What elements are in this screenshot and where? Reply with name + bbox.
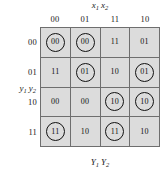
row-header: 11 (12, 117, 37, 147)
kmap-cell[interactable]: 11 (41, 58, 70, 87)
cell-value: 10 (140, 98, 149, 106)
cell-value: 10 (81, 128, 90, 136)
kmap-cell[interactable]: 11 (101, 117, 130, 146)
kmap-cell[interactable]: 10 (101, 88, 130, 117)
column-header: 10 (130, 13, 160, 26)
row-header: 00 (12, 27, 37, 57)
cell-value: 10 (111, 98, 120, 106)
kmap-cell[interactable]: 11 (41, 117, 70, 146)
column-header-row: 00 01 11 10 (40, 13, 160, 26)
cell-value: 11 (111, 128, 119, 136)
cell-value: 11 (51, 68, 59, 76)
cell-value: 01 (140, 38, 149, 46)
kmap-cell[interactable]: 00 (71, 28, 100, 57)
cell-value: 00 (51, 98, 60, 106)
kmap-cell[interactable]: 01 (71, 58, 100, 87)
column-header: 00 (40, 13, 70, 26)
row-header-column: 00 01 10 11 (12, 27, 37, 147)
cell-value: 00 (81, 98, 90, 106)
kmap-cell[interactable]: 01 (130, 58, 159, 87)
output-variable-subscript-1: 1 (96, 161, 99, 168)
cell-value: 01 (81, 68, 90, 76)
kmap-cell[interactable]: 00 (41, 28, 70, 57)
column-variable-subscript-2: 2 (105, 4, 108, 11)
column-header: 01 (70, 13, 100, 26)
column-variable-label: x1x2 (78, 0, 122, 13)
column-header: 11 (100, 13, 130, 26)
karnaugh-map-figure: x1x2 00 01 11 10 y1y2 00 01 10 11 00 00 … (0, 0, 166, 174)
cell-value: 01 (140, 68, 149, 76)
output-variable-label: Y1Y2 (40, 156, 160, 171)
kmap-cell[interactable]: 10 (130, 88, 159, 117)
kmap-cell[interactable]: 10 (101, 58, 130, 87)
cell-value: 00 (51, 38, 60, 46)
row-header: 10 (12, 87, 37, 117)
cell-value: 11 (51, 128, 59, 136)
output-variable-subscript-2: 2 (106, 161, 109, 168)
cell-value: 11 (111, 38, 119, 46)
kmap-cell[interactable]: 10 (71, 117, 100, 146)
kmap-cell[interactable]: 00 (71, 88, 100, 117)
kmap-cell[interactable]: 11 (101, 28, 130, 57)
cell-value: 10 (140, 128, 149, 136)
column-variable-subscript-1: 1 (96, 4, 99, 11)
karnaugh-map-grid: 00 00 11 01 11 01 10 01 (40, 27, 160, 147)
row-header: 01 (12, 57, 37, 87)
kmap-cell[interactable]: 00 (41, 88, 70, 117)
cell-value: 00 (81, 38, 90, 46)
cell-value: 10 (111, 68, 120, 76)
kmap-cell[interactable]: 10 (130, 117, 159, 146)
kmap-cell[interactable]: 01 (130, 28, 159, 57)
